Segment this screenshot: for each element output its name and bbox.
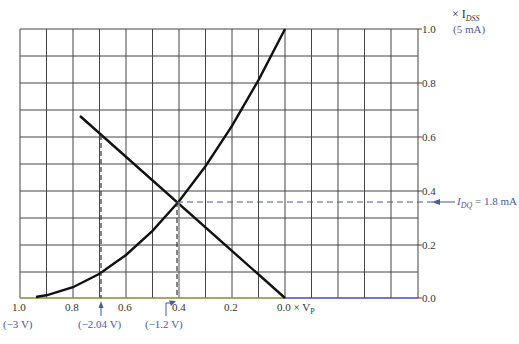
voltage-minus-3: (−3 V): [3, 319, 33, 330]
chart-canvas: [0, 0, 519, 344]
x-tick-0.2: 0.2: [224, 302, 238, 313]
y-tick-0.4: 0.4: [422, 186, 436, 197]
idq-arrow-icon: [432, 199, 440, 205]
y-tick-0.0: 0.0: [422, 293, 436, 304]
y-tick-0.8: 0.8: [422, 78, 436, 89]
bias-line: [80, 116, 285, 298]
idq-label: IDQ = 1.8 mA: [457, 196, 517, 210]
x-tick-0.6: 0.6: [118, 302, 132, 313]
y-tick-0.6: 0.6: [422, 132, 436, 143]
v204-arrow-icon: [99, 301, 104, 308]
y-tick-0.2: 0.2: [422, 240, 436, 251]
x-tick-1.0: 1.0: [12, 302, 26, 313]
y-max-current: (5 mA): [453, 24, 485, 35]
y-unit-label: × IDSS: [452, 8, 480, 23]
y-tick-1.0: 1.0: [422, 24, 436, 35]
voltage-minus-2.04: (−2.04 V): [78, 319, 121, 330]
x-zero-label: 0.0 × VP: [277, 302, 315, 316]
x-tick-0.8: 0.8: [65, 302, 79, 313]
x-tick-0.4: 0.4: [172, 302, 186, 313]
grid: [20, 29, 418, 298]
voltage-minus-1.2: (−1.2 V): [145, 319, 183, 330]
